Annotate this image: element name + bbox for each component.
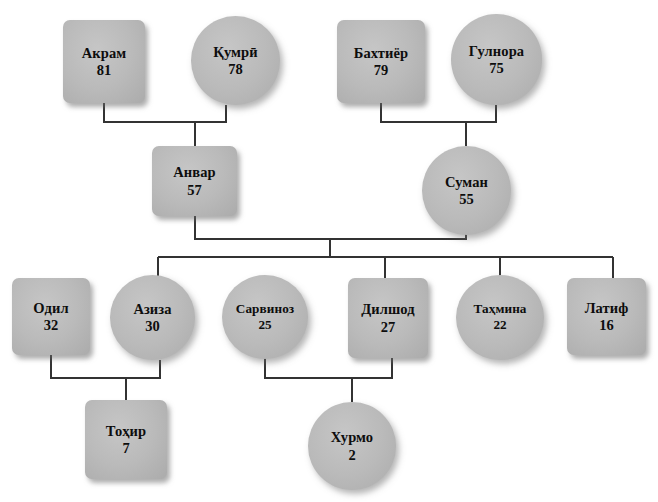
person-node-odil[interactable]: Одил 32	[12, 278, 90, 355]
person-node-akram[interactable]: Акрам 81	[63, 20, 145, 103]
person-age: 16	[599, 317, 614, 333]
edge-anvar-suman-union	[195, 216, 466, 239]
person-name: Суман	[445, 174, 488, 190]
person-name: Бахтиёр	[354, 45, 408, 61]
person-age: 81	[97, 62, 112, 78]
person-node-khurmo[interactable]: Хурмо 2	[308, 402, 396, 490]
person-node-qumri[interactable]: Қумрӣ 78	[191, 16, 280, 105]
person-age: 2	[348, 447, 355, 463]
person-node-dilshod[interactable]: Дилшод 27	[348, 278, 428, 358]
person-name: Тоҳир	[106, 423, 146, 439]
person-age: 78	[228, 61, 243, 77]
person-node-tokhir[interactable]: Тоҳир 7	[85, 400, 167, 479]
person-age: 7	[122, 440, 129, 456]
person-node-aziza[interactable]: Азиза 30	[110, 275, 195, 360]
family-tree-diagram: Акрам 81 Қумрӣ 78 Бахтиёр 79 Гулнора 75 …	[0, 0, 658, 502]
person-name: Қумрӣ	[213, 44, 257, 60]
person-node-takhmina[interactable]: Таҳмина 22	[456, 275, 544, 360]
person-node-suman[interactable]: Суман 55	[422, 146, 511, 235]
person-age: 75	[489, 60, 504, 76]
edge-akram-qumri-union	[104, 103, 226, 122]
edge-bakhtiyor-gulnora-union	[381, 103, 496, 122]
person-age: 57	[187, 182, 202, 198]
person-age: 79	[374, 62, 389, 78]
person-node-anvar[interactable]: Анвар 57	[152, 146, 237, 216]
person-node-sarvinoz[interactable]: Сарвиноз 25	[222, 275, 308, 359]
person-age: 27	[381, 319, 396, 335]
person-node-gulnora[interactable]: Гулнора 75	[451, 14, 542, 105]
person-node-latif[interactable]: Латиф 16	[567, 278, 646, 355]
person-name: Анвар	[173, 164, 215, 180]
person-name: Одил	[33, 300, 68, 316]
person-name: Азиза	[133, 301, 171, 317]
edge-sarvinoz-dilshod-union	[265, 358, 392, 378]
person-age: 30	[145, 318, 160, 334]
person-name: Гулнора	[469, 43, 524, 59]
person-age: 25	[258, 318, 271, 333]
person-node-bakhtiyor[interactable]: Бахтиёр 79	[337, 20, 425, 103]
person-name: Сарвиноз	[236, 302, 294, 317]
person-name: Латиф	[585, 300, 629, 316]
person-name: Акрам	[82, 45, 127, 61]
person-age: 32	[44, 317, 59, 333]
person-age: 55	[459, 191, 474, 207]
person-age: 22	[493, 318, 506, 333]
person-name: Хурмо	[331, 429, 373, 445]
person-name: Таҳмина	[473, 302, 526, 317]
person-name: Дилшод	[361, 301, 414, 317]
